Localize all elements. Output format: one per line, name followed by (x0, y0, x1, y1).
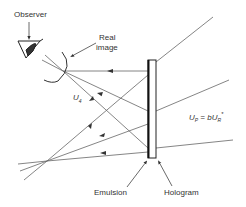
emulsion-label: Emulsion (94, 189, 127, 197)
real-image-label-line1: Real (99, 34, 115, 42)
u4-label: U4 (73, 94, 82, 104)
rays-to-real-image (42, 55, 148, 148)
rays-to-lower-point (18, 75, 148, 180)
incident-rays (156, 17, 233, 148)
eye-icon (18, 39, 43, 58)
u4-subscript: 4 (79, 98, 82, 104)
hologram-label: Hologram (164, 189, 199, 197)
ray-arrows (88, 69, 113, 155)
equation-mid: = bU (198, 113, 217, 122)
diagram-canvas (0, 0, 246, 207)
ur-subscript: R (217, 117, 221, 123)
real-image-label-line2: image (96, 44, 118, 52)
observer-label: Observer (14, 11, 47, 19)
conjugate-star: * (221, 111, 223, 117)
up-equation-label: UP = bUR* (189, 111, 223, 123)
